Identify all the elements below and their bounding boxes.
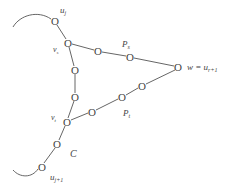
label-uj: uj: [60, 5, 67, 16]
edge-pt2-pt1: [96, 99, 118, 110]
label-vt: vt: [51, 113, 57, 123]
node-w: O: [174, 61, 182, 73]
node-pt1: O: [88, 106, 96, 118]
edge-ps1-ps2: [102, 52, 126, 56]
node-c3: O: [53, 138, 61, 150]
diagram-svg: O O O O O O O O O O O O O uj vs Ps w = u…: [0, 0, 230, 188]
node-uj1: O: [38, 161, 46, 173]
node-ps2: O: [126, 51, 134, 63]
nodes: O O O O O O O O O O O O O: [38, 15, 182, 173]
curve-into-uj1: [13, 169, 38, 176]
node-pt3: O: [138, 80, 146, 92]
node-uj: O: [51, 15, 59, 27]
node-vs: O: [64, 37, 72, 49]
edge-ps2-w: [134, 58, 174, 66]
curve-into-uj: [13, 14, 51, 27]
label-vs: vs: [53, 45, 59, 55]
label-pt: Pt: [122, 108, 131, 119]
node-pt2: O: [118, 91, 126, 103]
path-diagram: O O O O O O O O O O O O O uj vs Ps w = u…: [0, 0, 230, 188]
label-c: C: [70, 148, 77, 159]
node-c2: O: [71, 91, 79, 103]
label-w: w = ur+1: [187, 62, 217, 73]
node-c1: O: [71, 64, 79, 76]
label-ps: Ps: [121, 39, 131, 50]
node-vt: O: [63, 116, 71, 128]
label-uj1: uj+1: [50, 172, 63, 183]
edge-vs-ps1: [72, 44, 94, 50]
node-ps1: O: [94, 45, 102, 57]
edge-pt3-pt2: [126, 88, 138, 95]
edge-pt1-vt: [71, 113, 88, 120]
edge-w-pt3: [146, 70, 175, 84]
